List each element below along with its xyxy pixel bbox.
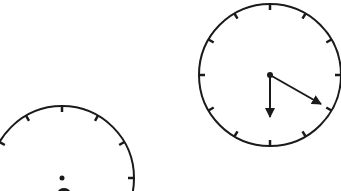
tick-mark bbox=[235, 14, 238, 19]
tick-mark bbox=[119, 142, 124, 145]
clock-left bbox=[0, 106, 134, 191]
hand-base-left bbox=[58, 188, 70, 191]
tick-mark bbox=[235, 131, 238, 136]
tick-mark bbox=[209, 40, 214, 43]
clock-right bbox=[199, 4, 341, 146]
center-pivot-right bbox=[267, 72, 273, 78]
tick-mark bbox=[26, 116, 29, 121]
center-pivot-left bbox=[60, 176, 65, 181]
clock-face-left bbox=[0, 106, 134, 191]
tick-mark bbox=[0, 142, 5, 145]
tick-mark bbox=[303, 14, 306, 19]
tick-mark bbox=[326, 40, 331, 43]
minute-hand bbox=[270, 75, 321, 104]
tick-mark bbox=[326, 108, 331, 111]
tick-mark bbox=[95, 116, 98, 121]
tick-mark bbox=[209, 108, 214, 111]
tick-mark bbox=[303, 131, 306, 136]
clock-diagram bbox=[0, 0, 341, 191]
